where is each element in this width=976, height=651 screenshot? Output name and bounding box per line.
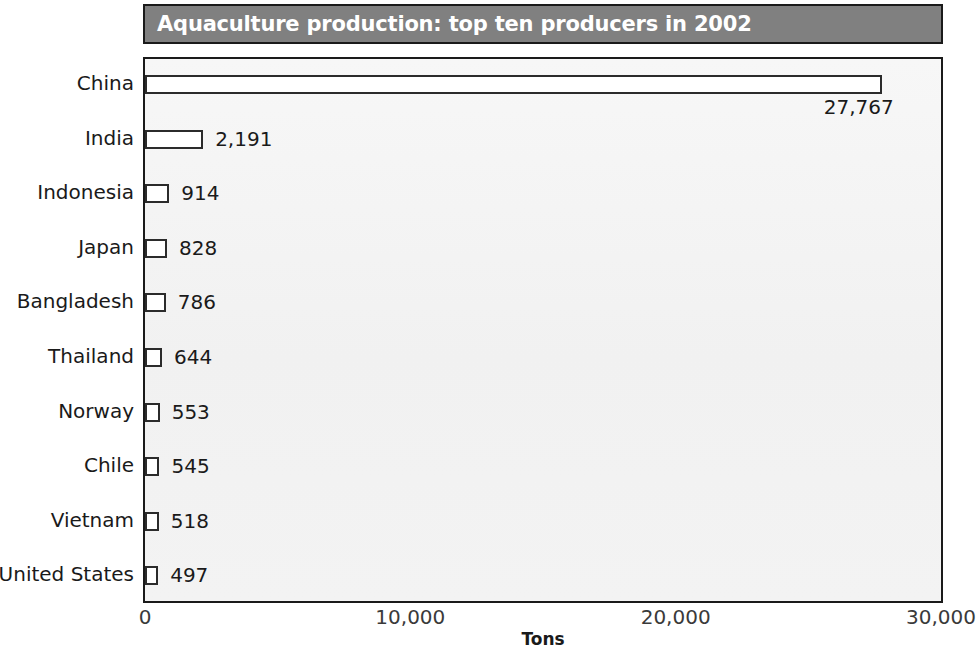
bar[interactable]: [145, 184, 169, 203]
bar-value-label: 2,191: [215, 127, 272, 151]
bar-row: 27,767: [145, 59, 941, 114]
bar-row: 2,191: [145, 114, 941, 169]
bar-value-label: 545: [171, 454, 209, 478]
category-label: Indonesia: [0, 180, 134, 204]
x-axis-title: Tons: [143, 629, 943, 649]
category-label: Japan: [0, 235, 134, 259]
category-label: Bangladesh: [0, 289, 134, 313]
bar-row: 545: [145, 441, 941, 496]
category-label: Chile: [0, 453, 134, 477]
category-label: Vietnam: [0, 508, 134, 532]
bar-value-label: 828: [179, 236, 217, 260]
bar-row: 644: [145, 332, 941, 387]
bar-row: 497: [145, 550, 941, 605]
bar[interactable]: [145, 239, 167, 258]
category-label: Norway: [0, 399, 134, 423]
bar-row: 786: [145, 277, 941, 332]
bar-value-label: 786: [178, 290, 216, 314]
bar-value-label: 518: [171, 509, 209, 533]
bar-row: 914: [145, 168, 941, 223]
category-axis-labels: ChinaIndiaIndonesiaJapanBangladeshThaila…: [0, 57, 138, 603]
x-tick-label: 30,000: [906, 605, 976, 629]
bar-value-label: 553: [172, 400, 210, 424]
bar[interactable]: [145, 403, 160, 422]
bar[interactable]: [145, 130, 203, 149]
plot-area: 27,7672,191914828786644553545518497: [143, 57, 943, 603]
x-tick-label: 20,000: [641, 605, 711, 629]
x-tick-label: 10,000: [375, 605, 445, 629]
bar-value-label: 644: [174, 345, 212, 369]
chart-title: Aquaculture production: top ten producer…: [145, 12, 752, 36]
bar[interactable]: [145, 293, 166, 312]
chart-title-bar: Aquaculture production: top ten producer…: [143, 4, 943, 44]
category-label: United States: [0, 562, 134, 586]
bar[interactable]: [145, 75, 882, 94]
category-label: China: [0, 71, 134, 95]
category-label: Thailand: [0, 344, 134, 368]
bar-row: 518: [145, 496, 941, 551]
bar[interactable]: [145, 566, 158, 585]
category-label: India: [0, 126, 134, 150]
bar-row: 553: [145, 387, 941, 442]
x-tick-label: 0: [139, 605, 152, 629]
bar-value-label: 497: [170, 563, 208, 587]
bar[interactable]: [145, 512, 159, 531]
bar[interactable]: [145, 348, 162, 367]
bar[interactable]: [145, 457, 159, 476]
bar-row: 828: [145, 223, 941, 278]
bar-value-label: 914: [181, 181, 219, 205]
